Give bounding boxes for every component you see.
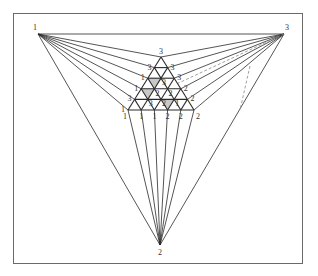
sperner-triangulation-diagram: 1323113133322111222322321 xyxy=(0,0,318,276)
outer-edge-1-2 xyxy=(38,34,160,245)
fan-line-from-2 xyxy=(160,110,181,245)
outer-edge-3-2 xyxy=(160,34,284,245)
fan-line-from-1 xyxy=(38,34,128,110)
left-boundary-label: 1 xyxy=(134,84,138,93)
fan-line-from-2 xyxy=(160,110,168,245)
right-boundary-label: 2 xyxy=(184,84,188,93)
fan-line-from-3 xyxy=(161,34,284,57)
vertex-label-1: 1 xyxy=(33,23,37,32)
right-boundary-label: 3 xyxy=(177,73,181,82)
apex-label: 3 xyxy=(159,47,163,56)
dashed-line xyxy=(240,66,250,110)
bottom-boundary-label: 2 xyxy=(179,112,183,121)
bottom-boundary-label: 1 xyxy=(139,112,143,121)
interior-label: 1 xyxy=(175,99,179,108)
grid-line-right-diag xyxy=(135,99,142,110)
interior-label: 3 xyxy=(162,78,166,87)
fan-line-from-1 xyxy=(38,34,154,68)
fan-line-from-3 xyxy=(181,34,284,89)
fan-line-from-1 xyxy=(38,34,161,57)
right-boundary-label: 3 xyxy=(171,63,175,72)
shaded-cell xyxy=(148,78,161,89)
interior-label: 2 xyxy=(162,99,166,108)
bottom-boundary-label: 2 xyxy=(166,112,170,121)
interior-label: 2 xyxy=(155,89,159,98)
fan-line-from-3 xyxy=(194,34,284,110)
fan-line-from-3 xyxy=(168,34,284,68)
left-boundary-label: 3 xyxy=(128,94,132,103)
left-boundary-label: 3 xyxy=(147,63,151,72)
shaded-cell xyxy=(141,89,154,100)
bottom-boundary-label: 2 xyxy=(196,112,200,121)
vertex-label-3: 3 xyxy=(285,23,289,32)
right-boundary-label: 2 xyxy=(190,94,194,103)
bottom-boundary-label: 1 xyxy=(123,112,127,121)
bottom-boundary-label: 1 xyxy=(152,112,156,121)
dashed-line xyxy=(178,34,285,84)
vertex-label-2: 2 xyxy=(158,248,162,257)
interior-label: 2 xyxy=(169,89,173,98)
left-boundary-label: 1 xyxy=(141,73,145,82)
grid-line-left-diag xyxy=(181,99,188,110)
interior-label: 3 xyxy=(149,99,153,108)
fan-line-from-2 xyxy=(160,110,194,245)
